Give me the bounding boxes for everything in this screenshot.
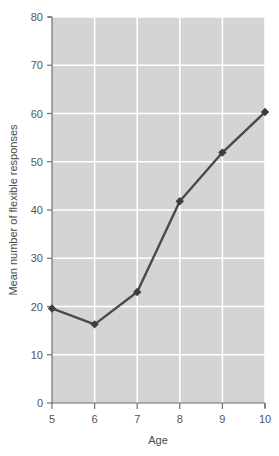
y-tick-label-0: 0 (37, 397, 43, 409)
x-tick-label-9: 9 (219, 413, 225, 425)
chart-container: 01020304050607080 5678910 Mean number of… (0, 0, 279, 456)
y-tick-label-50: 50 (31, 156, 43, 168)
y-tick-label-70: 70 (31, 59, 43, 71)
y-tick-label-30: 30 (31, 252, 43, 264)
y-tick-label-20: 20 (31, 301, 43, 313)
line-chart: 01020304050607080 5678910 Mean number of… (0, 0, 279, 456)
x-tick-label-5: 5 (49, 413, 55, 425)
y-tick-label-40: 40 (31, 204, 43, 216)
x-tick-label-6: 6 (92, 413, 98, 425)
x-tick-label-10: 10 (259, 413, 271, 425)
y-tick-label-60: 60 (31, 108, 43, 120)
x-axis-title: Age (148, 434, 168, 446)
x-tick-label-8: 8 (177, 413, 183, 425)
y-tick-label-80: 80 (31, 11, 43, 23)
x-tick-label-7: 7 (134, 413, 140, 425)
y-axis-title: Mean number of flexible responses (7, 124, 19, 296)
y-tick-label-10: 10 (31, 349, 43, 361)
